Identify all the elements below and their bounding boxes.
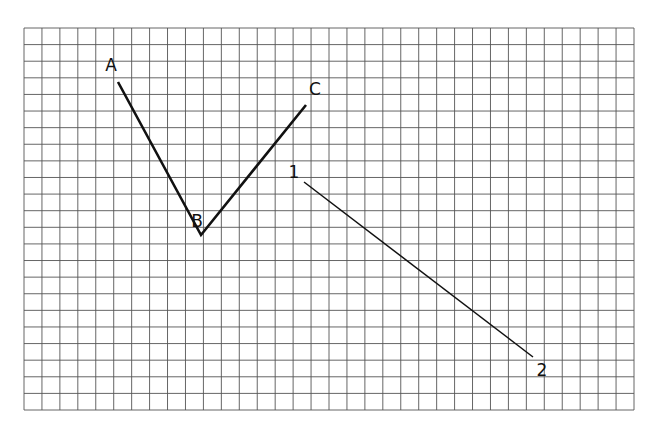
- grid: [24, 28, 634, 410]
- label-1: 1: [289, 162, 300, 182]
- line-segments: [118, 82, 533, 357]
- point-labels: A B C 1 2: [105, 55, 547, 380]
- label-2: 2: [537, 360, 548, 380]
- label-c: C: [309, 79, 321, 99]
- grid-diagram: A B C 1 2: [0, 0, 657, 426]
- segment-abc: [118, 82, 306, 235]
- label-b: B: [191, 211, 203, 231]
- label-a: A: [105, 55, 117, 75]
